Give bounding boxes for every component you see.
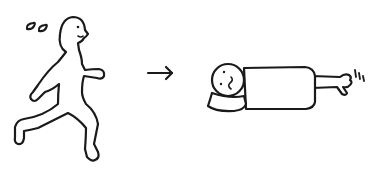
collapsed-head bbox=[212, 64, 244, 96]
running-eye bbox=[77, 26, 80, 29]
collapsed-eye-2 bbox=[220, 83, 222, 85]
running-person bbox=[15, 17, 104, 161]
sweat-drops-icon bbox=[27, 23, 47, 31]
twitch-marks-icon bbox=[355, 70, 364, 81]
collapsed-body bbox=[244, 67, 315, 109]
arrow-right-icon bbox=[148, 67, 172, 79]
collapsed-person bbox=[208, 64, 364, 111]
collapsed-arm bbox=[312, 74, 352, 94]
running-body bbox=[15, 17, 104, 161]
illustration-canvas bbox=[0, 0, 378, 178]
collapsed-eye-1 bbox=[223, 71, 225, 73]
